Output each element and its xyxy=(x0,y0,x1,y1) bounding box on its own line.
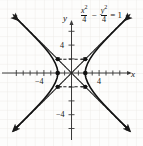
equation-x-denominator: 4 xyxy=(81,15,87,24)
equation-equals: = 1 xyxy=(110,11,122,20)
equation-x-numerator: x2 xyxy=(80,7,89,15)
rect-corner-bottom-right-point xyxy=(83,85,87,89)
y-tick-label-positive-4: 4 xyxy=(60,41,64,50)
vertex-right-point xyxy=(83,71,88,76)
equation-y-numerator: y2 xyxy=(100,7,109,15)
rect-corner-bottom-left-point xyxy=(56,85,60,89)
rect-corner-top-left-point xyxy=(56,57,60,61)
vertex-left-point xyxy=(55,71,60,76)
rect-corner-top-right-point xyxy=(83,57,87,61)
x-axis-label: x xyxy=(131,69,135,79)
equation-operator: − xyxy=(92,11,97,20)
x-tick-label-negative-4: −4 xyxy=(35,77,44,86)
y-axis-label: y xyxy=(63,13,67,23)
equation-y-denominator: 4 xyxy=(101,15,107,24)
x-tick-label-positive-4: 4 xyxy=(97,77,101,86)
y-tick-label-negative-4: −4 xyxy=(56,110,65,119)
equation-term-y: y2 4 xyxy=(100,7,109,24)
hyperbola-figure: x2 4 − y2 4 = 1 y x −4 4 4 −4 xyxy=(0,0,143,146)
equation-term-x: x2 4 xyxy=(80,7,89,24)
equation-annotation: x2 4 − y2 4 = 1 xyxy=(79,7,122,24)
